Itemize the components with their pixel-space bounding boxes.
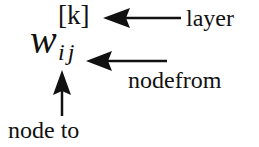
node-to-label: node to — [8, 118, 79, 142]
layer-arrow-icon — [103, 8, 181, 28]
node-from-label: nodefrom — [128, 68, 221, 92]
layer-label: layer — [186, 6, 234, 30]
node-to-arrow-icon — [53, 70, 71, 116]
